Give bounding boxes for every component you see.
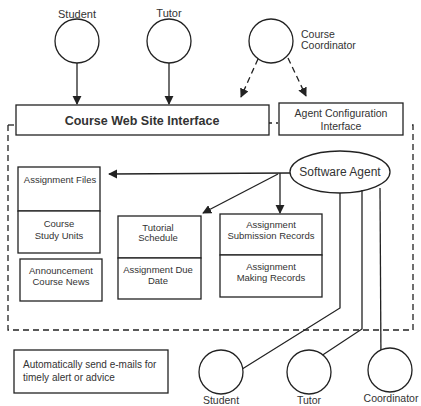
interface-label: Agent Configuration: [295, 107, 388, 119]
actor-label: Tutor: [156, 7, 182, 19]
store-label: Assignment: [246, 219, 296, 230]
actor-circle-icon: [287, 350, 331, 394]
agent-configuration-interface: Agent Configuration Interface: [279, 103, 403, 135]
note-label: timely alert or advice: [23, 372, 115, 383]
actor-tutor-bottom: Tutor: [287, 350, 331, 406]
actor-circle-icon: [249, 19, 293, 63]
actor-circle-icon: [55, 19, 99, 63]
interface-label: Course Web Site Interface: [65, 114, 220, 128]
store-label: Date: [148, 275, 168, 286]
store-tutorial-schedule: Tutorial Schedule: [118, 216, 201, 258]
actor-tutor-top: Tutor: [147, 7, 191, 104]
actor-label: Student: [58, 8, 96, 20]
actor-label: Coordinator: [301, 39, 356, 51]
actor-coordinator-bottom: Coordinator: [364, 348, 419, 404]
store-label: Schedule: [138, 232, 178, 243]
actor-student-top: Student: [55, 8, 99, 104]
note-label: Automatically send e-mails for: [23, 359, 157, 370]
email-note: Automatically send e-mails for timely al…: [14, 350, 168, 393]
course-agent-diagram: Student Tutor Course Coordinator Course …: [0, 0, 421, 406]
course-web-site-interface: Course Web Site Interface: [16, 105, 269, 135]
agent-label: Software Agent: [299, 165, 381, 179]
actor-label: Coordinator: [364, 392, 419, 404]
store-label: Assignment: [246, 261, 296, 272]
store-label: Assignment Files: [24, 174, 97, 185]
actor-label: Student: [203, 394, 239, 406]
store-announcement: Announcement Course News: [20, 259, 102, 301]
store-label: Announcement: [29, 265, 93, 276]
actor-circle-icon: [147, 19, 191, 63]
store-label: Submission Records: [227, 230, 314, 241]
store-submission-records: Assignment Submission Records: [220, 214, 322, 255]
actor-label: Tutor: [297, 394, 322, 406]
actor-coordinator-top: Course Coordinator: [241, 19, 356, 97]
actor-student-bottom: Student: [199, 350, 243, 406]
actor-circle-icon: [199, 350, 243, 394]
store-label: Assignment Due: [123, 264, 193, 275]
store-label: Study Units: [35, 230, 84, 241]
store-assignment-due-date: Assignment Due Date: [118, 258, 201, 299]
store-making-records: Assignment Making Records: [220, 255, 322, 297]
store-label: Course: [44, 218, 75, 229]
store-label: Making Records: [237, 272, 306, 283]
interface-label: Interface: [321, 120, 362, 132]
store-label: Course News: [32, 276, 89, 287]
store-assignment-files: Assignment Files: [18, 167, 100, 211]
actor-circle-icon: [368, 348, 412, 392]
store-course-study-units: Course Study Units: [18, 211, 100, 253]
